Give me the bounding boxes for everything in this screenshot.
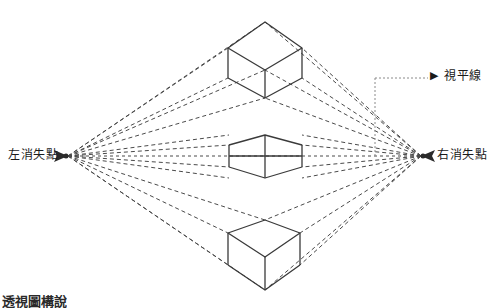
perspective-diagram: 左消失點 右消失點 ▶ 視平線 透視圖構說 [0, 0, 489, 308]
lower-cube [228, 220, 300, 290]
right-vanishing-point-label: 右消失點 [437, 149, 487, 161]
lower-cube-top-edges [228, 220, 300, 233]
diagram-canvas [0, 0, 489, 308]
ray-left-mid-bottom [68, 156, 229, 178]
horizon-line-label: 視平線 [444, 70, 482, 82]
left-vanishing-point-label: 左消失點 [8, 149, 58, 161]
ray-right-mid-upper [302, 145, 421, 156]
ray-left-upper-left-bot [68, 78, 228, 156]
ray-left-upper-bot-apex [68, 98, 265, 156]
ray-right-lower-bot-apex [265, 156, 421, 290]
ray-left-upper-left-top [68, 48, 228, 156]
ray-right-upper-bot-apex [265, 98, 421, 156]
upper-cube-top-face [228, 22, 302, 70]
ray-left-lower-top-apex [68, 156, 265, 220]
ray-right-upper-right-bot [302, 78, 421, 156]
upper-cube [228, 22, 302, 98]
ray-right-lower-right-top [300, 156, 421, 233]
ray-right-mid-top [302, 135, 421, 156]
lower-cube-front-face [228, 233, 300, 257]
horizon-callout-leader [375, 78, 428, 156]
page-caption-clipped: 透視圖構說 [2, 295, 67, 308]
horizon-arrow-icon: ▶ [430, 70, 438, 81]
right-vanishing-point-marker [421, 150, 436, 162]
ray-right-mid-lower [302, 156, 421, 167]
ray-left-mid-upper [68, 145, 229, 156]
ray-left-mid-lower [68, 156, 229, 167]
ray-left-mid-top [68, 135, 229, 156]
lower-cube-bottom-edges [228, 265, 300, 290]
ray-right-upper-center [265, 70, 421, 156]
ray-right-lower-top-apex [265, 156, 421, 220]
ray-right-upper-right-top [302, 48, 421, 156]
ray-right-upper-top-apex [265, 22, 421, 156]
ray-right-mid-bottom [302, 156, 421, 178]
ray-left-lower-left-top [68, 156, 228, 233]
middle-box [229, 135, 302, 178]
ray-right-lower-right-bot [300, 156, 421, 265]
